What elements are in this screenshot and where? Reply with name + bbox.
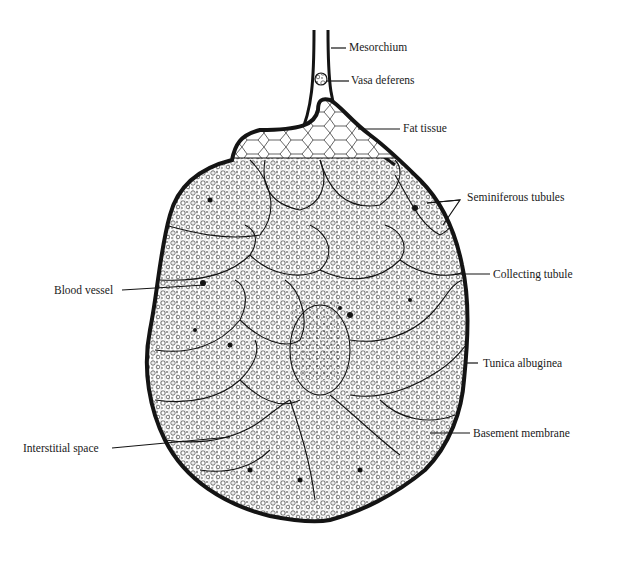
label-vasa-deferens: Vasa deferens — [351, 74, 415, 87]
label-mesorchium: Mesorchium — [349, 41, 407, 54]
label-seminiferous-tubules: Seminiferous tubules — [467, 191, 564, 204]
label-basement-membrane: Basement membrane — [473, 427, 570, 440]
label-interstitial-space: Interstitial space — [23, 442, 99, 455]
label-tunica-albuginea: Tunica albuginea — [483, 357, 562, 370]
label-blood-vessel: Blood vessel — [54, 284, 113, 297]
vasa-deferens-shape — [315, 73, 327, 85]
label-collecting-tubule: Collecting tubule — [493, 268, 573, 281]
label-fat-tissue: Fat tissue — [403, 122, 447, 135]
